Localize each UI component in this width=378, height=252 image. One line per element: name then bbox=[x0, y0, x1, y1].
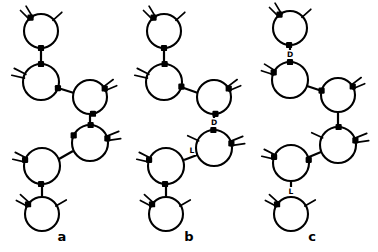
panel-label-a: a bbox=[58, 229, 67, 244]
ring-b3 bbox=[197, 80, 241, 117]
ring-a6 bbox=[16, 195, 66, 231]
bond-a4-a5 bbox=[59, 151, 73, 159]
ring-a5 bbox=[13, 148, 60, 187]
substituent-stub bbox=[312, 133, 323, 138]
substituent-stub bbox=[56, 200, 66, 206]
ring-circle bbox=[273, 145, 309, 181]
bond-label-l: L bbox=[289, 187, 294, 196]
ring-circle bbox=[272, 62, 308, 98]
substituent-stub bbox=[12, 75, 25, 78]
attachment-node bbox=[276, 12, 282, 18]
ring-circle bbox=[196, 130, 232, 166]
attachment-node bbox=[38, 61, 44, 67]
ring-c1 bbox=[269, 3, 310, 48]
substituent-stub bbox=[188, 136, 199, 141]
attachment-node bbox=[25, 201, 31, 207]
bond-c4-c5 bbox=[309, 152, 321, 157]
panel-label-c: c bbox=[308, 229, 316, 244]
substituent-stub bbox=[176, 12, 185, 20]
attachment-node bbox=[306, 157, 312, 163]
panel-b: DLb bbox=[135, 6, 245, 244]
ring-b1 bbox=[143, 6, 184, 51]
bond-label-d: D bbox=[287, 50, 293, 59]
ring-circle bbox=[320, 127, 356, 163]
attachment-node bbox=[287, 59, 293, 65]
attachment-node bbox=[27, 15, 33, 21]
panel-c: DLc bbox=[261, 3, 368, 244]
panel-a: a bbox=[12, 6, 121, 244]
ring-a4 bbox=[71, 122, 121, 161]
attachment-node bbox=[271, 154, 277, 160]
attachment-node bbox=[55, 85, 61, 91]
ring-a1 bbox=[20, 6, 61, 51]
attachment-node bbox=[352, 137, 358, 143]
ring-circle bbox=[23, 64, 59, 100]
bond-label-l: L bbox=[190, 146, 195, 155]
attachment-node bbox=[274, 201, 280, 207]
attachment-node bbox=[318, 88, 324, 94]
ring-circle bbox=[146, 64, 182, 100]
ring-circle bbox=[197, 80, 231, 114]
attachment-node bbox=[102, 85, 108, 91]
ring-b5 bbox=[137, 148, 184, 187]
ring-a3 bbox=[73, 80, 117, 117]
attachment-node bbox=[212, 111, 218, 117]
ring-c2 bbox=[261, 59, 308, 98]
attachment-node bbox=[90, 111, 96, 117]
attachment-node bbox=[271, 69, 277, 75]
attachment-node bbox=[146, 157, 152, 163]
ring-c5 bbox=[262, 145, 312, 181]
panel-label-b: b bbox=[184, 229, 193, 244]
attachment-node bbox=[22, 157, 28, 163]
ring-circle bbox=[72, 125, 108, 161]
ring-circle bbox=[24, 148, 60, 184]
substituent-stub bbox=[53, 12, 62, 20]
attachment-node bbox=[162, 181, 168, 187]
attachment-node bbox=[336, 124, 342, 130]
attachment-node bbox=[149, 201, 155, 207]
substituent-stub bbox=[14, 68, 26, 74]
substituent-stub bbox=[135, 75, 148, 78]
attachment-node bbox=[71, 132, 77, 138]
ring-b6 bbox=[140, 195, 190, 231]
attachment-node bbox=[161, 45, 167, 51]
ring-circle bbox=[148, 148, 184, 184]
attachment-node bbox=[104, 135, 110, 141]
substituent-stub bbox=[180, 200, 190, 206]
ring-a2 bbox=[12, 61, 61, 100]
attachment-node bbox=[228, 140, 234, 146]
substituent-stub bbox=[302, 9, 311, 17]
bond-label-d: D bbox=[211, 118, 217, 127]
attachment-node bbox=[150, 15, 156, 21]
ring-circle bbox=[321, 78, 355, 112]
attachment-node bbox=[88, 122, 94, 128]
attachment-node bbox=[350, 83, 356, 89]
attachment-node bbox=[162, 61, 168, 67]
attachment-node bbox=[38, 181, 44, 187]
ring-c4 bbox=[312, 124, 369, 163]
attachment-node bbox=[178, 84, 184, 90]
bond-b4-b5 bbox=[184, 155, 197, 160]
substituent-stub bbox=[305, 200, 315, 206]
ring-c3 bbox=[318, 78, 364, 112]
attachment-node bbox=[286, 42, 292, 48]
attachment-node bbox=[38, 45, 44, 51]
attachment-node bbox=[210, 127, 216, 133]
ring-b4 bbox=[188, 127, 245, 166]
chain-diagram-svg: aDLbDLc bbox=[0, 0, 378, 252]
ring-c6 bbox=[265, 195, 315, 231]
ring-b2 bbox=[135, 61, 185, 100]
figure-canvas: aDLbDLc bbox=[0, 0, 378, 252]
attachment-node bbox=[226, 85, 232, 91]
ring-circle bbox=[73, 80, 107, 114]
substituent-stub bbox=[137, 68, 149, 74]
